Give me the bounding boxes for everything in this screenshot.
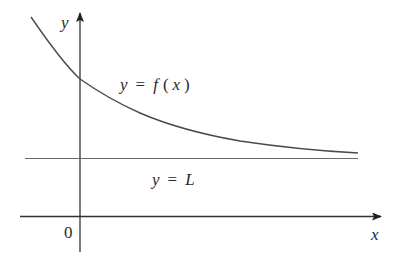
asymptote-label: y = L [150,170,195,189]
curve-label-lhs: y [118,75,128,94]
function-graph-diagram: y x 0 y = f ( x ) y = L [0,0,397,267]
curve-label-open-paren: ( [163,75,169,94]
x-axis-label: x [370,225,379,244]
curve-label-fn: f [153,75,160,94]
curve-label-arg: x [172,75,181,94]
curve-label-close-paren: ) [184,75,190,94]
asymptote-label-rhs: L [184,170,194,189]
y-axis-label: y [59,13,69,32]
curve-label-equals: = [136,75,146,94]
origin-label: 0 [64,223,73,242]
curve-label: y = f ( x ) [118,75,190,94]
asymptote-label-lhs: y [150,170,160,189]
asymptote-label-equals: = [168,170,178,189]
